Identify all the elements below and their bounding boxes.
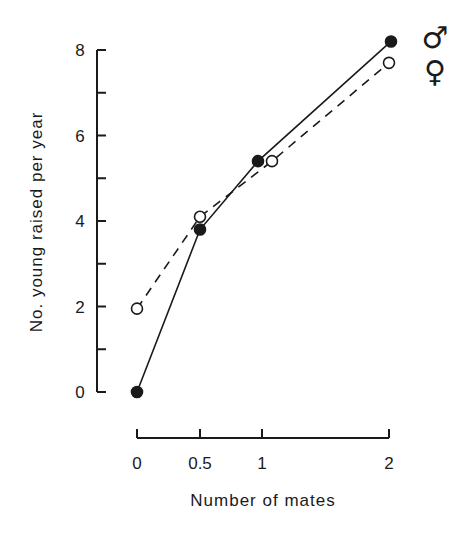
y-tick-label: 4: [75, 212, 84, 231]
x-tick-label: 1: [257, 454, 266, 473]
x-tick-label: 2: [384, 454, 393, 473]
y-tick-label: 8: [75, 41, 84, 60]
x-tick-label: 0: [132, 454, 141, 473]
x-axis-title: Number of mates: [190, 491, 335, 510]
data-point: [132, 387, 143, 398]
x-axis: [137, 429, 389, 438]
data-point: [195, 211, 206, 222]
y-tick-label: 0: [75, 383, 84, 402]
y-tick-label: 6: [75, 127, 84, 146]
y-axis: [97, 50, 106, 392]
y-tick-labels: 02468: [75, 41, 84, 402]
data-point: [195, 224, 206, 235]
y-axis-title: No. young raised per year: [27, 112, 46, 333]
series-female-line: [132, 57, 395, 314]
data-point: [253, 156, 264, 167]
data-point: [132, 303, 143, 314]
y-tick-label: 2: [75, 298, 84, 317]
data-point: [386, 36, 397, 47]
x-tick-labels: 00.512: [132, 454, 393, 473]
chart: 02468 00.512 No. young raised per year N…: [0, 0, 462, 533]
data-point: [384, 57, 395, 68]
x-tick-label: 0.5: [188, 454, 212, 473]
male-symbol-icon: ♂: [422, 20, 449, 55]
female-symbol-icon: ♀: [424, 54, 446, 89]
data-point: [267, 156, 278, 167]
